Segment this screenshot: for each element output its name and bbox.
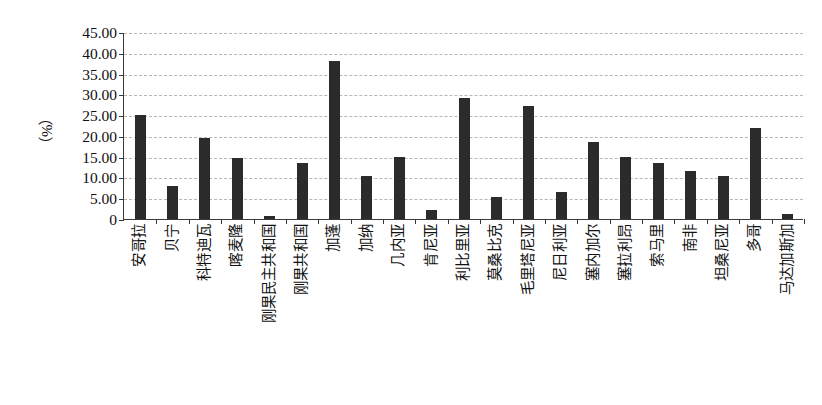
x-axis-tick-label: 利比里亚 [456,224,471,374]
y-axis-tick-label: 10.00 [82,171,117,187]
x-axis-tick-label-group: 安哥拉贝宁科特迪瓦喀麦隆刚果民主共和国刚果共和国加蓬加纳几内亚肯尼亚利比里亚莫桑… [123,224,803,374]
bar [459,98,470,219]
bar [361,176,372,219]
bar [232,158,243,219]
y-axis-title: （%） [34,96,58,166]
x-axis-tick-label: 刚果民主共和国 [261,224,276,374]
x-axis-tick-label: 喀麦隆 [229,224,244,374]
x-axis-tick-label: 塞拉利昂 [618,224,633,374]
y-axis-tick-label: 0 [109,212,117,228]
x-axis-tick-label: 毛里塔尼亚 [520,224,535,374]
bar [556,192,567,219]
y-axis-tick-label: 20.00 [82,129,117,145]
y-axis-tick-label: 25.00 [82,108,117,124]
x-axis-tick-label: 科特迪瓦 [197,224,212,374]
x-axis-tick-label: 肯尼亚 [423,224,438,374]
x-axis-tick-label: 尼日利亚 [553,224,568,374]
bar [264,216,275,219]
x-axis-tick-label: 多哥 [747,224,762,374]
y-axis-tick-label: 40.00 [82,46,117,62]
bar [329,61,340,219]
bar [491,197,502,219]
x-axis-tick-label: 索马里 [650,224,665,374]
bar [588,142,599,219]
x-axis-tick-label: 塞内加尔 [585,224,600,374]
bar [750,128,761,219]
y-axis-tick-label: 5.00 [90,191,117,207]
x-axis-tick-label: 加蓬 [326,224,341,374]
y-axis-tick-label: 45.00 [82,25,117,41]
bar [653,163,664,220]
y-axis-tick-label: 35.00 [82,67,117,83]
x-axis-tick-label: 几内亚 [391,224,406,374]
x-axis-tick-mark [804,219,805,224]
bar [426,210,437,219]
x-axis-tick-label: 坦桑尼亚 [715,224,730,374]
bar [135,115,146,219]
y-axis-tick-label: 15.00 [82,150,117,166]
x-axis-tick-label: 贝宁 [164,224,179,374]
y-axis-tick-mark [119,220,124,221]
x-axis-tick-label: 莫桑比克 [488,224,503,374]
bar [394,157,405,219]
bar [297,163,308,219]
bar [523,106,534,219]
bar [685,171,696,219]
bar-series [124,33,803,219]
x-axis-tick-label: 加纳 [358,224,373,374]
plot-area [123,33,803,220]
y-axis-tick-label-group: 45.0040.0035.0030.0025.0020.0015.0010.00… [68,33,120,220]
x-axis-tick-label: 南非 [682,224,697,374]
y-axis-tick-label: 30.00 [82,88,117,104]
bar-chart: （%） 45.0040.0035.0030.0025.0020.0015.001… [0,0,822,405]
x-axis-tick-label: 安哥拉 [132,224,147,374]
x-axis-tick-label: 刚果共和国 [294,224,309,374]
bar [718,176,729,219]
bar [167,186,178,219]
bar [620,157,631,219]
bar [782,214,793,219]
x-axis-tick-label: 马达加斯加 [779,224,794,374]
bar [199,138,210,219]
